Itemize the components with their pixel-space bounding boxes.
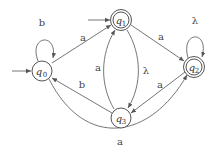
edge-label-q1-q2: a [158,31,164,42]
state-q0: q 0 [32,61,52,81]
svg-text:2: 2 [195,67,199,75]
svg-text:q: q [36,66,42,77]
automaton-diagram: b a a a λ a b a λ q 0 q 1 q 2 q 3 [0,0,217,149]
state-q1: q 1 [111,10,132,31]
edge-label-q2-q3: a [157,79,163,90]
svg-text:1: 1 [122,20,126,28]
svg-text:0: 0 [43,71,47,79]
edge-label-q3-q1: a [95,62,101,73]
edge-label-q1-q3: λ [143,65,150,76]
edge-label-q0-q1: a [80,32,86,43]
edge-q0-q0 [36,40,54,61]
state-q3: q 3 [111,108,131,128]
edge-label-q0-q2: a [117,136,123,147]
edge-label-q2-q2: λ [192,15,199,26]
state-q2: q 2 [184,57,205,78]
svg-text:3: 3 [122,118,126,126]
edge-q0-q1 [52,25,111,63]
edge-q1-q3 [127,30,138,108]
edge-q2-q2 [187,37,204,58]
edge-label-q0-q0: b [39,17,45,28]
edge-q3-q1 [104,30,115,109]
edge-label-q3-q0: b [79,79,85,90]
